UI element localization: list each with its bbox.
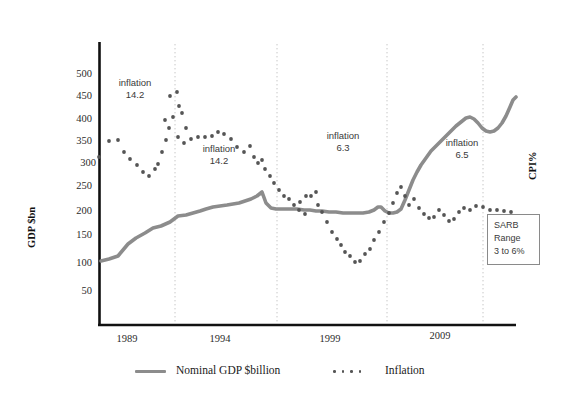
annotation-label: inflation <box>203 143 236 154</box>
y-tick-150: 150 <box>58 229 92 241</box>
annotation-inflation-2: inflation 14.2 <box>188 144 250 167</box>
y-axis-title-left: GDP $bn <box>26 207 38 248</box>
annotation-label: inflation <box>446 137 479 148</box>
sarb-line-2: Range <box>494 232 534 245</box>
legend-label-inflation: Inflation <box>385 364 425 376</box>
y-tick-400: 400 <box>58 113 92 125</box>
x-tick-1994: 1994 <box>197 333 243 345</box>
chart-plot-area <box>0 0 565 405</box>
gridlines <box>175 44 483 324</box>
y-tick-500: 500 <box>58 68 92 80</box>
annotation-value: 6.3 <box>312 143 374 153</box>
annotation-value: 6.5 <box>431 150 493 160</box>
annotation-label: inflation <box>327 130 360 141</box>
legend-dot <box>359 370 362 373</box>
legend-dot <box>333 370 336 373</box>
sarb-line-1: SARB <box>494 219 534 232</box>
sarb-line-3: 3 to 6% <box>494 245 534 258</box>
annotation-inflation-1: inflation 14.2 <box>104 78 166 101</box>
legend-marker-inflation-dots <box>333 370 361 373</box>
y-tick-300: 300 <box>62 157 96 169</box>
sarb-range-box: SARB Range 3 to 6% <box>487 214 540 265</box>
annotation-value: 14.2 <box>104 90 166 100</box>
annotation-inflation-3: inflation 6.3 <box>312 131 374 154</box>
legend-marker-gdp-line <box>135 370 166 373</box>
x-tick-1989: 1989 <box>104 333 150 345</box>
inflation-dot-series <box>97 90 513 264</box>
x-tick-2009: 2009 <box>417 330 463 342</box>
x-tick-1999: 1999 <box>307 333 353 345</box>
y-tick-350: 350 <box>58 135 92 147</box>
y-tick-250: 250 <box>58 180 92 192</box>
gdp-line-series <box>101 97 516 261</box>
legend-dot <box>350 370 353 373</box>
y-tick-50: 50 <box>58 285 92 297</box>
annotation-value: 14.2 <box>188 156 250 166</box>
y-tick-100: 100 <box>58 257 92 269</box>
legend-dot <box>342 370 345 373</box>
y-tick-200: 200 <box>58 205 92 217</box>
annotation-label: inflation <box>119 77 152 88</box>
annotation-inflation-4: inflation 6.5 <box>431 138 493 161</box>
legend-label-gdp: Nominal GDP $billion <box>176 364 280 376</box>
chart-figure: 500 450 400 350 300 250 200 150 100 50 1… <box>0 0 565 405</box>
y-tick-450: 450 <box>58 90 92 102</box>
y-axis-title-right: CPI% <box>527 151 539 180</box>
